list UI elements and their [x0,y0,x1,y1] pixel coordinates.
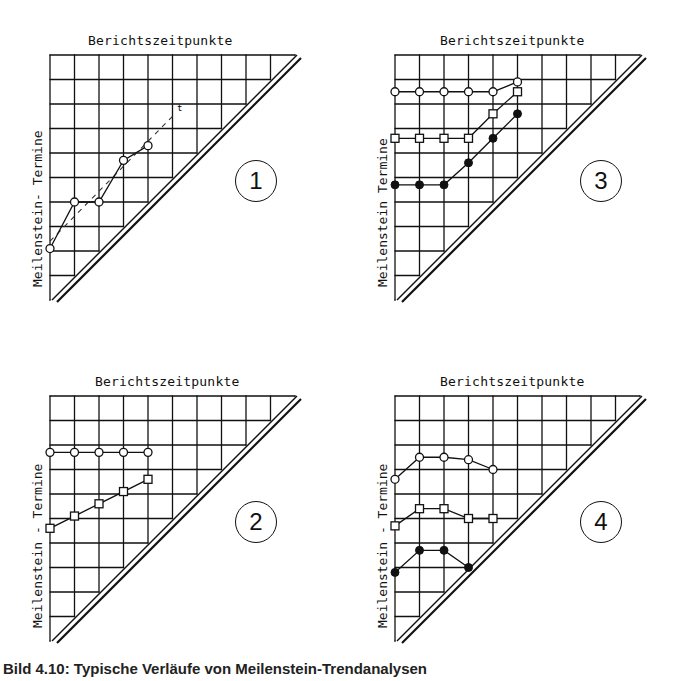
circle-marker-icon [120,156,128,164]
x-axis-title: Berichtszeitpunkte [88,33,232,48]
square-marker-icon [95,500,103,508]
circle-marker-icon [416,453,424,461]
filled-dot-marker-icon [465,564,473,572]
filled-dot-marker-icon [416,546,424,554]
filled-dot-marker-icon [465,159,473,167]
square-marker-icon [46,524,54,532]
filled-dot-marker-icon [440,181,448,189]
mta-panel-4: BerichtszeitpunkteMeilenstein - Termine4 [395,396,681,681]
series-line-milestone-a [395,82,518,92]
circle-marker-icon [465,456,473,464]
x-axis-title: Berichtszeitpunkte [95,374,239,389]
square-marker-icon [391,134,399,142]
circle-marker-icon [416,88,424,96]
circle-marker-icon [46,448,54,456]
y-axis-title: Meilenstein- Termine [30,130,45,287]
circle-marker-icon [391,475,399,483]
circle-marker-icon [440,453,448,461]
y-axis-title: Meilenstein - Termine [30,464,45,628]
y-axis-title: Meilenstein - Termine [375,464,390,628]
circle-marker-icon [144,448,152,456]
circle-marker-icon [514,78,522,86]
circle-marker-icon [144,142,152,150]
square-marker-icon [489,515,497,523]
square-marker-icon [465,134,473,142]
series-line-milestone-c [395,114,518,185]
square-marker-icon [514,88,522,96]
panel-number-badge: 4 [580,501,622,543]
y-axis-title: Meilenstein Termine [375,138,390,287]
square-marker-icon [489,110,497,118]
square-marker-icon [416,134,424,142]
filled-dot-marker-icon [391,181,399,189]
circle-marker-icon [489,88,497,96]
circle-marker-icon [465,88,473,96]
square-marker-icon [71,512,79,520]
panel-number-badge: 1 [235,160,277,202]
x-axis-title: Berichtszeitpunkte [440,374,584,389]
circle-marker-icon [120,448,128,456]
square-marker-icon [465,515,473,523]
filled-dot-marker-icon [514,110,522,118]
square-marker-icon [416,505,424,513]
circle-marker-icon [95,198,103,206]
filled-dot-marker-icon [489,134,497,142]
circle-marker-icon [46,245,54,253]
mta-panel-2: BerichtszeitpunkteMeilenstein - Termine2 [50,396,350,681]
series-line-milestone-c [395,550,469,572]
square-marker-icon [440,505,448,513]
square-marker-icon [440,134,448,142]
filled-dot-marker-icon [440,546,448,554]
circle-marker-icon [440,88,448,96]
figure-caption: Bild 4.10: Typische Verläufe von Meilens… [3,660,427,677]
mta-panel-3: BerichtszeitpunkteMeilenstein Termine3 [395,55,681,355]
circle-marker-icon [71,198,79,206]
circle-marker-icon [71,448,79,456]
filled-dot-marker-icon [391,568,399,576]
mta-panel-1: tBerichtszeitpunkteMeilenstein- Termine1 [50,55,350,355]
square-marker-icon [120,488,128,496]
circle-marker-icon [95,448,103,456]
circle-marker-icon [391,88,399,96]
square-marker-icon [391,522,399,530]
square-marker-icon [144,475,152,483]
circle-marker-icon [489,466,497,474]
panel-number-badge: 3 [580,160,622,202]
x-axis-title: Berichtszeitpunkte [440,33,584,48]
panel-number-badge: 2 [235,501,277,543]
trend-label: t [177,103,182,113]
filled-dot-marker-icon [416,181,424,189]
